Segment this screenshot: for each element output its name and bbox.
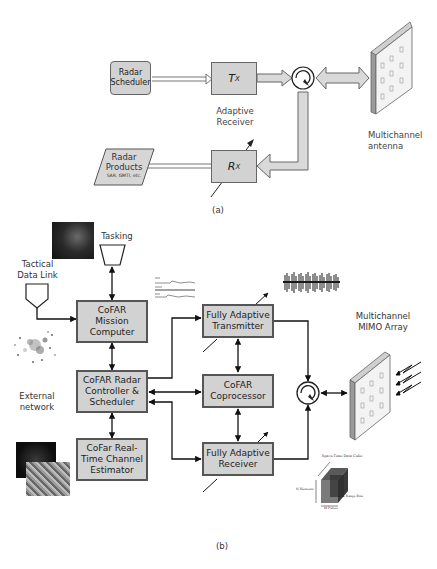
space-time-data-cube-icon <box>316 462 348 506</box>
caption-b: (b) <box>210 540 234 552</box>
transmit-waveform-image <box>283 272 340 293</box>
radar-controller-label: CoFAR Radar Controller & Scheduler <box>83 375 141 408</box>
mimo-array-icon <box>350 352 390 440</box>
fully-adaptive-transmitter-label: Fully Adaptive Transmitter <box>206 310 269 332</box>
signal-plots-image <box>155 278 195 297</box>
mission-computer-label: CoFAR Mission Computer <box>90 305 135 338</box>
coprocessor-label: CoFAR Coprocessor <box>210 380 266 402</box>
mission-computer-box: CoFAR Mission Computer <box>76 300 148 343</box>
tactical-data-link-label: Tactical Data Link <box>10 259 65 281</box>
tasking-photo <box>52 222 94 259</box>
channel-estimator-box: CoFar Real- Time Channel Estimator <box>76 438 148 481</box>
radar-controller-box: CoFAR Radar Controller & Scheduler <box>76 370 148 413</box>
data-cube-axis-pulses: M Pulses <box>322 506 340 510</box>
external-network-image <box>14 331 56 363</box>
fully-adaptive-receiver-box: Fully Adaptive Receiver <box>202 442 274 476</box>
mimo-array-label: Multichannel MIMO Array <box>348 311 418 333</box>
coprocessor-box: CoFAR Coprocessor <box>202 374 274 408</box>
fully-adaptive-transmitter-box: Fully Adaptive Transmitter <box>202 304 274 338</box>
external-network-label: External network <box>12 391 62 413</box>
data-cube-axis-elements: N Elements <box>294 487 316 491</box>
tasking-shape <box>100 245 125 265</box>
fully-adaptive-receiver-label: Fully Adaptive Receiver <box>206 448 269 470</box>
data-cube-axis-range-bins: L Range Bins <box>342 494 364 498</box>
data-cube-title: Space-Time Data Cube <box>318 454 366 459</box>
tasking-label: Tasking <box>96 230 138 242</box>
channel-estimator-label: CoFar Real- Time Channel Estimator <box>81 443 143 476</box>
radiating-wave-icons <box>396 362 421 395</box>
channel-photo-light <box>26 462 70 496</box>
tactical-data-link-shape <box>26 284 48 308</box>
